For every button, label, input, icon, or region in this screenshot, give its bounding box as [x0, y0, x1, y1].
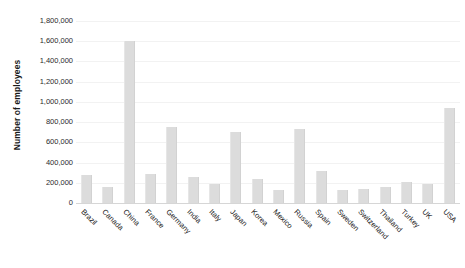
x-label-slot: Italy: [204, 205, 225, 263]
bar-korea[interactable]: [252, 179, 263, 203]
plot-area: [76, 21, 460, 203]
bar-india[interactable]: [188, 177, 199, 203]
x-label-slot: Brazil: [76, 205, 97, 263]
bar-sweden[interactable]: [337, 190, 348, 203]
x-axis-tick-label-india: India: [186, 208, 203, 225]
x-axis-tick-label-uk: UK: [421, 208, 434, 221]
x-axis-tick-label-usa: USA: [442, 208, 458, 224]
y-axis-tick-label: 1,600,000: [40, 37, 73, 45]
bar-slot: [268, 21, 289, 203]
bar-slot: [332, 21, 353, 203]
bar-thailand[interactable]: [380, 187, 391, 203]
x-axis-tick-label-brazil: Brazil: [79, 208, 98, 227]
bar-slot: [247, 21, 268, 203]
bars-container: [76, 21, 460, 203]
x-axis-tick-labels: BrazilCanadaChinaFranceGermanyIndiaItaly…: [76, 205, 460, 263]
y-axis-tick-label: 600,000: [46, 139, 73, 147]
y-axis-tick-label: 800,000: [46, 118, 73, 126]
bar-china[interactable]: [124, 41, 135, 203]
bar-slot: [289, 21, 310, 203]
x-axis-tick-label-korea: Korea: [250, 208, 269, 227]
x-label-slot: Germany: [161, 205, 182, 263]
bar-slot: [183, 21, 204, 203]
bar-switzerland[interactable]: [358, 189, 369, 203]
bar-france[interactable]: [145, 174, 156, 203]
x-label-slot: UK: [417, 205, 438, 263]
bar-slot: [396, 21, 417, 203]
y-axis-tick-label: 1,400,000: [40, 58, 73, 66]
y-axis-tick-label: 1,000,000: [40, 98, 73, 106]
bar-germany[interactable]: [166, 127, 177, 203]
bar-slot: [140, 21, 161, 203]
bar-russia[interactable]: [294, 129, 305, 203]
x-label-slot: India: [183, 205, 204, 263]
y-axis-tick-labels: 1,800,0001,600,0001,400,0001,200,0001,00…: [28, 14, 73, 204]
bar-brazil[interactable]: [81, 175, 92, 203]
x-label-slot: Mexico: [268, 205, 289, 263]
x-label-slot: China: [119, 205, 140, 263]
x-label-slot: Thailand: [375, 205, 396, 263]
y-axis-tick-label: 1,200,000: [40, 78, 73, 86]
x-axis-tick-label-spain: Spain: [314, 208, 333, 227]
x-label-slot: Russia: [289, 205, 310, 263]
bar-slot: [353, 21, 374, 203]
bar-uk[interactable]: [422, 184, 433, 203]
x-axis-tick-label-italy: Italy: [207, 208, 222, 223]
bar-usa[interactable]: [444, 108, 455, 203]
bar-slot: [375, 21, 396, 203]
bar-slot: [161, 21, 182, 203]
bar-italy[interactable]: [209, 184, 220, 203]
x-label-slot: Switzerland: [353, 205, 374, 263]
bar-mexico[interactable]: [273, 190, 284, 203]
bar-slot: [97, 21, 118, 203]
x-label-slot: Japan: [225, 205, 246, 263]
bar-slot: [204, 21, 225, 203]
x-label-slot: Turkey: [396, 205, 417, 263]
bar-turkey[interactable]: [401, 182, 412, 203]
bar-slot: [76, 21, 97, 203]
bar-slot: [439, 21, 460, 203]
bar-spain[interactable]: [316, 171, 327, 203]
x-axis-line: [76, 203, 460, 204]
bar-slot: [119, 21, 140, 203]
y-axis-title: Number of employees: [4, 0, 30, 210]
y-axis-tick-label: 0: [69, 199, 73, 207]
y-axis-title-label: Number of employees: [12, 60, 22, 151]
x-axis-tick-label-china: China: [122, 208, 141, 227]
bar-canada[interactable]: [102, 187, 113, 203]
x-label-slot: Canada: [97, 205, 118, 263]
x-label-slot: France: [140, 205, 161, 263]
x-label-slot: Sweden: [332, 205, 353, 263]
x-label-slot: USA: [439, 205, 460, 263]
y-axis-tick-label: 400,000: [46, 159, 73, 167]
x-label-slot: Spain: [311, 205, 332, 263]
x-label-slot: Korea: [247, 205, 268, 263]
y-axis-tick-label: 1,800,000: [40, 17, 73, 25]
bar-slot: [311, 21, 332, 203]
x-axis-tick-label-japan: Japan: [229, 208, 249, 228]
bar-slot: [225, 21, 246, 203]
y-axis-tick-label: 200,000: [46, 179, 73, 187]
bar-japan[interactable]: [230, 132, 241, 203]
bar-chart: Number of employees 1,800,0001,600,0001,…: [0, 0, 465, 268]
bar-slot: [417, 21, 438, 203]
